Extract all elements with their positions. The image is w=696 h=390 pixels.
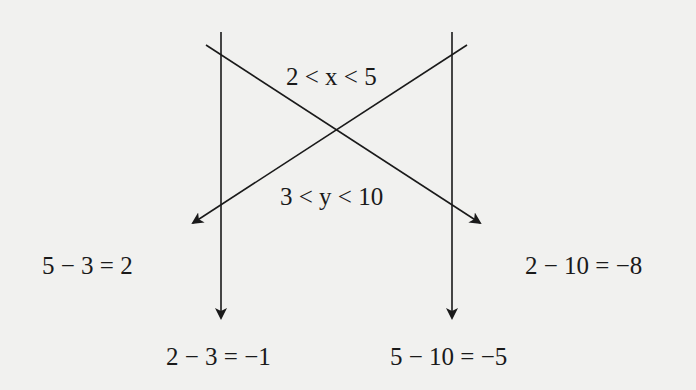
left-mid-equation: 5 − 3 = 2 [42,253,133,278]
bottom-right-equation: 5 − 10 = −5 [390,344,507,369]
bottom-left-equation: 2 − 3 = −1 [166,344,271,369]
y-range-label: 3 < y < 10 [280,184,383,209]
x-range-label: 2 < x < 5 [286,64,377,89]
right-mid-equation: 2 − 10 = −8 [525,253,642,278]
